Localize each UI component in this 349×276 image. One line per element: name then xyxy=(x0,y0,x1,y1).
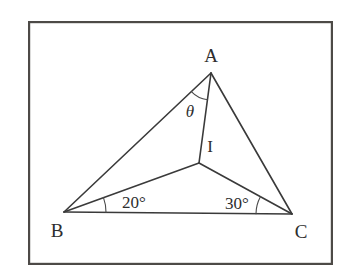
angle-label-b: 20° xyxy=(122,194,146,211)
point-label-i: I xyxy=(207,138,213,155)
vertex-label-b: B xyxy=(51,221,64,240)
geometry-figure: A B C I θ 20° 30° xyxy=(0,0,349,276)
angle-label-theta: θ xyxy=(186,103,194,120)
figure-border xyxy=(29,22,332,264)
vertex-label-a: A xyxy=(204,46,218,65)
angle-label-c: 30° xyxy=(225,195,249,212)
vertex-label-c: C xyxy=(295,222,308,241)
